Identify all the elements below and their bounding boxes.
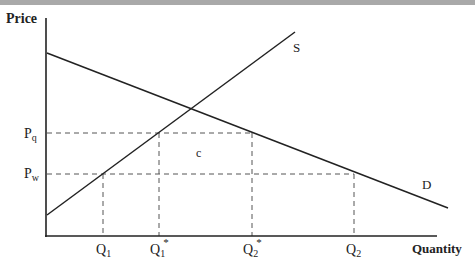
- demand-curve: [47, 53, 448, 208]
- q1-star-label: Q1*: [150, 236, 169, 259]
- q2-label: Q2: [346, 242, 361, 259]
- pw-label: Pw: [24, 166, 40, 183]
- region-c-label: c: [196, 146, 201, 160]
- pq-label: Pq: [24, 126, 37, 143]
- q2-star-label: Q2*: [243, 236, 262, 259]
- x-axis-label: Quantity: [412, 241, 462, 256]
- supply-label: S: [293, 40, 300, 55]
- q1-label: Q1: [96, 242, 111, 259]
- demand-label: D: [422, 177, 431, 192]
- supply-demand-diagram: Price Quantity S D Pq Pw Q1 Q1* Q2* Q2 c: [0, 0, 475, 268]
- supply-curve: [47, 32, 295, 215]
- y-axis-label: Price: [6, 11, 37, 26]
